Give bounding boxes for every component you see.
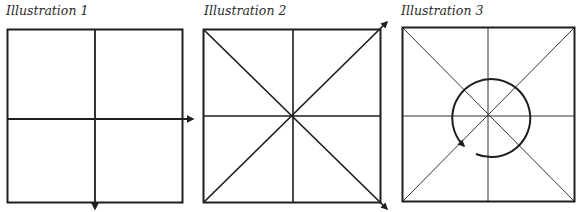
illustration-2	[204, 22, 388, 209]
rotation-arrow-icon	[452, 79, 530, 157]
illustration-1	[8, 30, 194, 210]
illustration-2-diagonal-down-arrow	[204, 30, 388, 210]
illustrations-canvas	[0, 0, 578, 212]
illustration-3	[403, 28, 575, 202]
illustration-2-diagonal-up-arrow	[204, 22, 388, 203]
